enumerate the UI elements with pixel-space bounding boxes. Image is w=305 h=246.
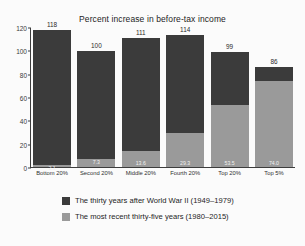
- legend-swatch-icon: [62, 213, 70, 221]
- bar-segment-recent: 74.0: [255, 81, 293, 167]
- bar-segment-postwar: [77, 51, 115, 158]
- y-axis-tick-label: 100: [16, 48, 27, 55]
- chart-legend: The thirty years after World War II (194…: [0, 196, 305, 228]
- legend-label: The most recent thirty-five years (1980–…: [75, 212, 229, 221]
- bar-segment-postwar: [33, 30, 71, 164]
- bar-segment-recent: 7.3: [77, 159, 115, 167]
- bar-total-label: 100: [77, 42, 115, 49]
- legend-swatch-icon: [62, 197, 70, 205]
- bar-segment-postwar: [211, 52, 249, 105]
- bar-segment-postwar: [166, 35, 204, 133]
- bar-group: 11429.3: [166, 35, 204, 167]
- x-axis-category-label: Bottom 20%: [33, 170, 71, 176]
- bar-total-label: 118: [33, 21, 71, 28]
- x-axis-category-labels: Bottom 20%Second 20%Middle 20%Fourth 20%…: [31, 170, 295, 176]
- bar-segment-value-label: 7.3: [77, 159, 115, 165]
- bar-segment-value-label: 13.6: [122, 160, 160, 166]
- bar-group: 9953.5: [211, 52, 249, 167]
- legend-item-postwar: The thirty years after World War II (194…: [0, 196, 305, 205]
- chart-container: Percent increase in before-tax income 12…: [0, 0, 305, 246]
- bars-container: 1182.11007.311113.611429.39953.58674.0: [31, 28, 295, 167]
- bar-segment-recent: 29.3: [166, 133, 204, 167]
- x-axis-category-label: Top 20%: [211, 170, 249, 176]
- bar-group: 11113.6: [122, 38, 160, 167]
- x-axis-category-label: Fourth 20%: [166, 170, 204, 176]
- x-axis-category-label: Top 5%: [255, 170, 293, 176]
- bar-group: 8674.0: [255, 67, 293, 167]
- y-axis-tick-label: 120: [16, 25, 27, 32]
- x-axis-category-label: Middle 20%: [122, 170, 160, 176]
- bar-group: 1182.1: [33, 30, 71, 167]
- y-axis-tick-label: 20: [20, 141, 27, 148]
- plot-area: 120 100 80 60 40 20 0 1182.11007.311113.…: [30, 28, 295, 168]
- bar-segment-recent: 2.1: [33, 165, 71, 167]
- bar-segment-recent: 13.6: [122, 151, 160, 167]
- y-axis-tick-label: 40: [20, 118, 27, 125]
- y-axis-tick-mark: [28, 168, 31, 169]
- bar-segment-recent: 53.5: [211, 105, 249, 167]
- bar-total-label: 99: [211, 43, 249, 50]
- bar-total-label: 114: [166, 26, 204, 33]
- bar-segment-postwar: [122, 38, 160, 151]
- y-axis-tick-label: 80: [20, 71, 27, 78]
- bar-total-label: 86: [255, 58, 293, 65]
- legend-label: The thirty years after World War II (194…: [75, 196, 234, 205]
- bar-segment-postwar: [255, 67, 293, 81]
- legend-item-recent: The most recent thirty-five years (1980–…: [0, 212, 305, 221]
- bar-segment-value-label: 74.0: [255, 160, 293, 166]
- bar-group: 1007.3: [77, 51, 115, 167]
- y-axis-tick-label: 0: [23, 165, 27, 172]
- bar-segment-value-label: 53.5: [211, 160, 249, 166]
- bar-segment-value-label: 29.3: [166, 160, 204, 166]
- y-axis-tick-label: 60: [20, 95, 27, 102]
- bar-total-label: 111: [122, 29, 160, 36]
- x-axis-category-label: Second 20%: [77, 170, 115, 176]
